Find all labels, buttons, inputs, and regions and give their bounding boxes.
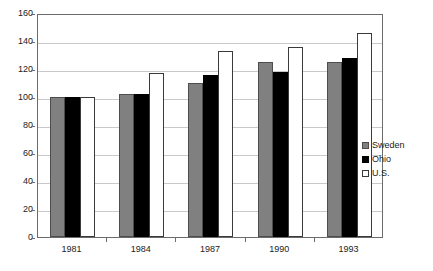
y-tick-label: 60	[0, 149, 33, 158]
bar-sweden-1987	[188, 83, 203, 237]
x-tick-mark	[175, 238, 176, 242]
legend-swatch-icon	[362, 142, 369, 149]
bar-sweden-1993	[327, 62, 342, 237]
bar-ohio-1981	[65, 97, 80, 237]
y-tick-label: 20	[0, 205, 33, 214]
bar-chart: 020406080100120140160 198119841987199019…	[0, 0, 433, 271]
legend-item-us: U.S.	[362, 167, 428, 180]
bar-ohio-1987	[203, 75, 218, 237]
bar-us-1987	[218, 51, 233, 237]
y-tick-label: 100	[0, 93, 33, 102]
bar-group-1981	[38, 15, 107, 237]
bar-sweden-1981	[50, 97, 65, 237]
legend-swatch-icon	[362, 156, 369, 163]
legend-item-sweden: Sweden	[362, 139, 428, 152]
bar-us-1993	[357, 33, 372, 237]
bars-layer	[38, 15, 382, 237]
legend: SwedenOhioU.S.	[362, 139, 428, 181]
y-tick-label: 0	[0, 233, 33, 242]
bar-group-1990	[246, 15, 315, 237]
legend-label: U.S.	[372, 169, 390, 178]
x-tick-label: 1981	[62, 245, 82, 254]
x-tick-label: 1990	[269, 245, 289, 254]
y-tick-mark	[31, 70, 35, 71]
bar-us-1990	[288, 47, 303, 237]
x-tick-mark	[106, 238, 107, 242]
x-tick-label: 1984	[131, 245, 151, 254]
y-tick-label: 120	[0, 65, 33, 74]
y-tick-label: 80	[0, 121, 33, 130]
y-tick-mark	[31, 154, 35, 155]
bar-group-1984	[107, 15, 176, 237]
bar-ohio-1990	[273, 72, 288, 237]
x-tick-label: 1987	[200, 245, 220, 254]
bar-ohio-1984	[134, 94, 149, 237]
y-tick-label: 160	[0, 9, 33, 18]
bar-sweden-1990	[258, 62, 273, 237]
bar-group-1993	[315, 15, 384, 237]
legend-label: Sweden	[372, 141, 405, 150]
legend-label: Ohio	[372, 155, 391, 164]
y-axis: 020406080100120140160	[0, 14, 33, 238]
y-tick-mark	[31, 98, 35, 99]
plot-area	[37, 14, 383, 238]
y-tick-mark	[31, 14, 35, 15]
bar-us-1984	[149, 73, 164, 237]
bar-sweden-1984	[119, 94, 134, 237]
x-tick-mark	[314, 238, 315, 242]
legend-item-ohio: Ohio	[362, 153, 428, 166]
y-tick-mark	[31, 210, 35, 211]
y-tick-mark	[31, 42, 35, 43]
y-tick-label: 140	[0, 37, 33, 46]
x-tick-mark	[245, 238, 246, 242]
legend-swatch-icon	[362, 170, 369, 177]
x-tick-label: 1993	[338, 245, 358, 254]
y-tick-mark	[31, 126, 35, 127]
y-tick-mark	[31, 182, 35, 183]
bar-ohio-1993	[342, 58, 357, 237]
x-axis: 19811984198719901993	[37, 241, 383, 259]
y-tick-mark	[31, 238, 35, 239]
bar-us-1981	[80, 97, 95, 237]
bar-group-1987	[176, 15, 245, 237]
y-tick-label: 40	[0, 177, 33, 186]
